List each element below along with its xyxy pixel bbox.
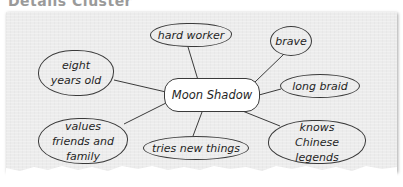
detail-node-knows-chinese-legends: knows Chinese legends xyxy=(268,120,366,164)
node-label: values friends and family xyxy=(45,119,121,164)
link-values-friends xyxy=(124,103,166,124)
link-eight-years-old xyxy=(114,80,166,92)
node-label: long braid xyxy=(292,79,348,94)
node-label: tries new things xyxy=(152,141,240,156)
detail-node-values-friends-family: values friends and family xyxy=(38,118,128,164)
link-hard-worker xyxy=(188,47,198,80)
link-knows-legends xyxy=(240,110,280,126)
detail-node-hard-worker: hard worker xyxy=(150,23,232,47)
node-label: hard worker xyxy=(158,28,225,43)
node-label: brave xyxy=(275,34,307,49)
node-label: Moon Shadow xyxy=(172,88,252,103)
link-long-braid xyxy=(259,89,281,95)
link-tries-new-things xyxy=(193,112,202,136)
central-node-moon-shadow: Moon Shadow xyxy=(164,78,260,112)
detail-node-eight-years-old: eight years old xyxy=(38,50,114,96)
detail-node-long-braid: long braid xyxy=(280,74,360,98)
detail-node-brave: brave xyxy=(270,26,312,56)
detail-node-tries-new-things: tries new things xyxy=(143,136,249,160)
link-brave xyxy=(255,54,284,82)
node-label: eight years old xyxy=(49,58,103,88)
node-label: knows Chinese legends xyxy=(277,120,357,165)
